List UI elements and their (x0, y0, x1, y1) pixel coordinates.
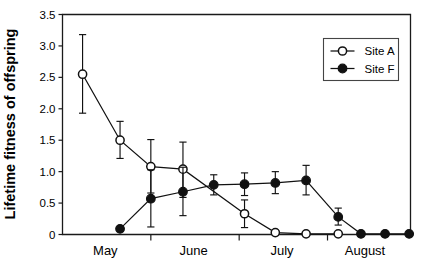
y-tick-label: 1.5 (40, 134, 56, 146)
legend-label: Site A (365, 45, 395, 57)
y-tick-label: 0.5 (40, 197, 56, 209)
data-point (302, 176, 311, 185)
y-axis-title-text: Lifetime fitness of offspring (2, 29, 18, 220)
x-tick-label: May (93, 243, 118, 258)
x-tick-label: June (180, 243, 208, 258)
y-axis-ticks: 00.51.01.52.02.53.03.5 (40, 9, 63, 241)
y-axis-title: Lifetime fitness of offspring (2, 29, 18, 220)
data-point (334, 213, 343, 222)
legend-sample-marker (338, 64, 347, 73)
legend-label: Site F (365, 63, 395, 75)
data-point (209, 181, 218, 190)
data-point (116, 136, 124, 144)
data-point (381, 230, 390, 239)
chart-figure: 00.51.01.52.02.53.03.5 MayJuneJulyAugust… (0, 0, 425, 267)
series-site-f (116, 165, 414, 238)
y-tick-label: 2.5 (40, 71, 56, 83)
x-tick-label: August (345, 243, 386, 258)
data-point (302, 230, 310, 238)
x-axis-ticks: MayJuneJulyAugust (93, 235, 386, 258)
data-point (240, 180, 249, 189)
chart-legend: Site ASite F (324, 39, 399, 81)
line-chart: 00.51.01.52.02.53.03.5 MayJuneJulyAugust… (0, 0, 425, 267)
data-point (147, 194, 156, 203)
data-point (357, 230, 366, 239)
legend-sample-marker (338, 47, 346, 55)
data-point (179, 187, 188, 196)
y-tick-label: 3.5 (40, 9, 56, 21)
data-point (334, 230, 342, 238)
data-point (78, 70, 86, 78)
y-tick-label: 0 (49, 229, 55, 241)
x-tick-label: July (270, 243, 294, 258)
y-tick-label: 1.0 (40, 166, 56, 178)
data-point (271, 229, 279, 237)
data-point (405, 230, 414, 239)
data-point (271, 179, 280, 188)
data-point (116, 225, 125, 234)
y-tick-label: 2.0 (40, 103, 56, 115)
series-line (83, 74, 339, 234)
series-site-a (78, 35, 342, 238)
data-point (240, 210, 248, 218)
y-tick-label: 3.0 (40, 40, 56, 52)
